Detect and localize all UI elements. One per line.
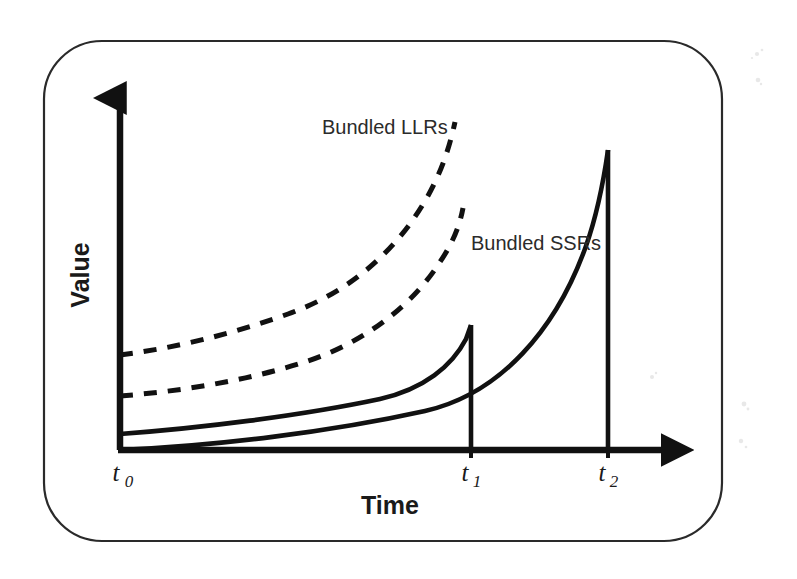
chart-canvas: Bundled LLRs Bundled SSRs Value Time t 0… (0, 0, 797, 579)
series-curve-ssr-t2 (120, 150, 608, 450)
scan-artifacts (650, 49, 763, 449)
x-tick-label-t1: t 1 (462, 459, 482, 491)
x-tick-label-t1-sub: 1 (473, 472, 482, 491)
x-tick-label-t0-base: t (113, 459, 121, 486)
x-tick-label-t0: t 0 (113, 459, 134, 491)
series-curve-ssr-t1 (120, 325, 471, 434)
x-tick-label-t0-sub: 0 (125, 472, 134, 491)
figure-container: Bundled LLRs Bundled SSRs Value Time t 0… (0, 0, 797, 579)
x-tick-label-t1-base: t (462, 459, 470, 486)
annotation-bundled-ssrs: Bundled SSRs (471, 232, 601, 254)
x-tick-label-t2: t 2 (599, 459, 619, 491)
annotation-bundled-llrs: Bundled LLRs (322, 116, 448, 138)
x-tick-label-t2-base: t (599, 459, 607, 486)
y-axis-title: Value (66, 242, 94, 307)
x-tick-label-t2-sub: 2 (610, 472, 619, 491)
series-curve-llr-lower (120, 208, 463, 396)
series-curve-llr-upper (120, 122, 455, 355)
x-axis-title: Time (361, 491, 419, 519)
